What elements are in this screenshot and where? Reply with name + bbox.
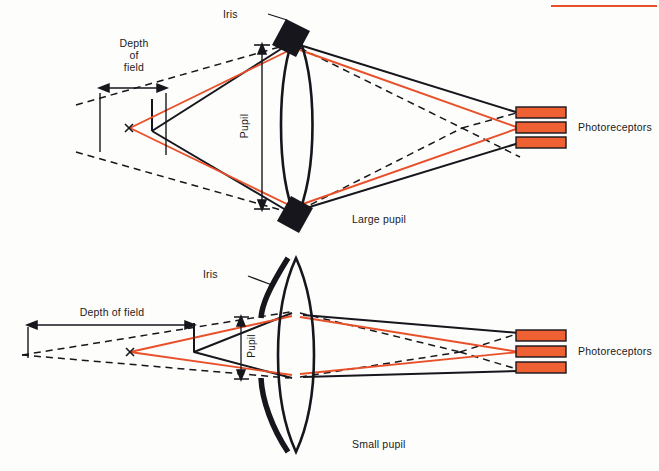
- panel-caption-large-pupil: Large pupil: [352, 213, 406, 225]
- depth-of-field-label-bottom: Depth of field: [62, 306, 162, 318]
- depth-of-field-bracket-bottom: [27, 321, 195, 358]
- photoreceptors-label-top: Photoreceptors: [578, 121, 652, 133]
- iris-leader-line-bottom: [248, 276, 272, 285]
- panel-caption-small-pupil: Small pupil: [352, 438, 406, 450]
- depth-of-field-label-top: Depth of field: [100, 37, 168, 73]
- pupil-label-top: Pupil: [238, 109, 250, 143]
- panel-small-pupil: [22, 258, 566, 452]
- red-rays-top: [130, 49, 519, 206]
- pupil-dimension-arrow-top: [254, 44, 270, 210]
- lens-bottom: [278, 258, 314, 452]
- iris-leader-line-top: [268, 14, 287, 20]
- optics-depth-of-field-figure: Iris Depth of field Pupil Photoreceptors…: [0, 0, 659, 471]
- iris-label-top: Iris: [223, 8, 238, 20]
- iris-arc-bottom-upper: [261, 258, 288, 318]
- dashed-rays-top-right: [300, 48, 520, 210]
- lens-top: [281, 30, 313, 220]
- photoreceptors-label-bottom: Photoreceptors: [578, 345, 652, 357]
- pupil-label-bottom: Pupil: [246, 329, 258, 363]
- photoreceptor-bars-bottom: [516, 330, 566, 373]
- photoreceptor-bars-top: [516, 107, 566, 148]
- iris-label-bottom: Iris: [203, 268, 218, 280]
- depth-of-field-bracket-top: [99, 84, 167, 155]
- diagram-canvas: [0, 0, 659, 471]
